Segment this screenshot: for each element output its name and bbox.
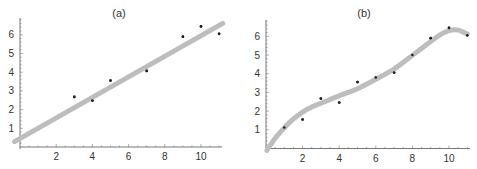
data-point (91, 99, 94, 102)
data-point (182, 35, 185, 38)
y-tick-label: 6 (8, 29, 14, 40)
chart-title: (b) (357, 7, 370, 19)
x-tick-label: 2 (300, 153, 306, 164)
y-tick-label: 1 (8, 123, 14, 134)
data-point (200, 25, 203, 28)
data-point (320, 97, 323, 100)
data-point (218, 33, 221, 36)
x-tick-label: 10 (195, 151, 207, 162)
x-tick-label: 8 (410, 153, 416, 164)
data-point (448, 27, 451, 30)
x-tick-label: 6 (373, 153, 379, 164)
x-tick-label: 2 (53, 151, 59, 162)
smooth-fit-curve (267, 30, 467, 151)
data-point (301, 118, 304, 121)
y-tick-label: 5 (8, 48, 14, 59)
y-tick-label: 1 (254, 124, 260, 135)
data-point (109, 79, 112, 82)
chart-title: (a) (112, 7, 125, 19)
data-point (145, 70, 148, 73)
data-point (411, 54, 414, 57)
data-point (73, 96, 76, 99)
x-tick-label: 4 (90, 151, 96, 162)
y-tick-label: 3 (8, 85, 14, 96)
data-point (356, 81, 359, 84)
curve-fit-scatter-plot: (b)246810123456 (237, 0, 477, 169)
data-point (429, 37, 432, 40)
y-tick-label: 6 (254, 31, 260, 42)
data-point (338, 101, 341, 104)
data-point (393, 71, 396, 74)
data-point (375, 76, 378, 79)
linear-fit-line (15, 23, 223, 141)
x-tick-label: 10 (443, 153, 455, 164)
x-tick-label: 4 (336, 153, 342, 164)
y-tick-label: 5 (254, 50, 260, 61)
chart-panel-a: (a)246810123456 (0, 0, 237, 169)
data-point (283, 126, 286, 129)
data-points-overlay (283, 27, 469, 129)
x-tick-label: 8 (162, 151, 168, 162)
chart-panel-b: (b)246810123456 (237, 0, 477, 169)
y-tick-label: 4 (8, 67, 14, 78)
linear-fit-scatter-plot: (a)246810123456 (0, 0, 237, 169)
y-tick-label: 2 (8, 104, 14, 115)
x-tick-label: 6 (126, 151, 132, 162)
y-tick-label: 3 (254, 87, 260, 98)
data-point (466, 34, 469, 37)
y-tick-label: 2 (254, 106, 260, 117)
y-tick-label: 4 (254, 68, 260, 79)
